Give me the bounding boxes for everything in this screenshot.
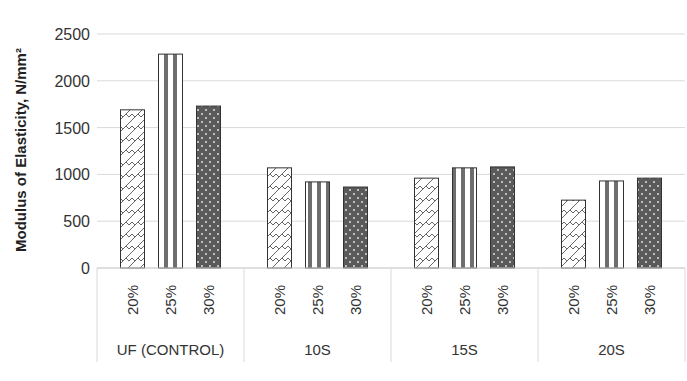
x-tick-label: 25%	[162, 285, 179, 315]
bar	[121, 110, 145, 268]
bar	[600, 181, 624, 268]
group-label: UF (CONTROL)	[117, 341, 225, 358]
y-tick-label: 2000	[54, 73, 90, 90]
bar	[638, 178, 662, 268]
x-tick-label: 20%	[271, 285, 288, 315]
bar-chart: 05001000150020002500 20%25%30%UF (CONTRO…	[0, 0, 687, 381]
x-tick-label: 25%	[456, 285, 473, 315]
bar	[306, 182, 330, 268]
x-tick-label: 20%	[124, 285, 141, 315]
bar	[197, 106, 221, 268]
group-label: 20S	[598, 341, 625, 358]
x-tick-label: 20%	[418, 285, 435, 315]
bar	[159, 54, 183, 268]
x-axis: 20%25%30%UF (CONTROL)20%25%30%10S20%25%3…	[97, 268, 685, 362]
y-tick-label: 1500	[54, 120, 90, 137]
x-tick-label: 30%	[200, 285, 217, 315]
bar	[562, 200, 586, 268]
x-tick-label: 25%	[309, 285, 326, 315]
x-tick-label: 30%	[641, 285, 658, 315]
bar	[453, 168, 477, 268]
x-tick-label: 25%	[603, 285, 620, 315]
group-label: 15S	[451, 341, 478, 358]
bar	[268, 168, 292, 268]
bar	[491, 167, 515, 268]
bar	[344, 187, 368, 268]
x-tick-label: 20%	[565, 285, 582, 315]
y-tick-label: 2500	[54, 26, 90, 43]
x-tick-label: 30%	[494, 285, 511, 315]
bar	[415, 178, 439, 268]
y-tick-label: 0	[81, 260, 90, 277]
y-tick-label: 500	[63, 213, 90, 230]
y-axis-ticks: 05001000150020002500	[54, 26, 90, 277]
y-tick-label: 1000	[54, 166, 90, 183]
bars	[121, 54, 662, 268]
group-label: 10S	[304, 341, 331, 358]
x-tick-label: 30%	[347, 285, 364, 315]
gridlines	[97, 34, 685, 268]
